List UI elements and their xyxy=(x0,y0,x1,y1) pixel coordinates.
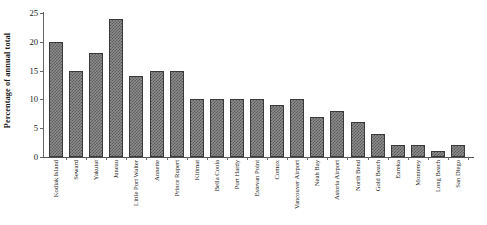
x-axis-label: Seward xyxy=(69,160,83,222)
x-axis-label: Eureka xyxy=(391,160,405,222)
x-axis-label: Prince Rupert xyxy=(170,160,184,222)
bar-chart-figure: Percentage of annual total 0510152025 Ko… xyxy=(0,0,487,225)
bar xyxy=(250,99,264,157)
x-axis-label-text: San Diego xyxy=(454,160,461,188)
x-axis-line xyxy=(43,157,474,158)
bar xyxy=(270,105,284,157)
x-axis-label-text: Long Beach xyxy=(434,160,441,192)
y-axis-tick-mark xyxy=(40,99,44,100)
x-axis-label-text: Kodiak Island xyxy=(52,160,59,197)
bar xyxy=(310,117,324,157)
bar xyxy=(170,71,184,157)
bar xyxy=(230,99,244,157)
x-axis-labels: Kodiak IslandSewardYakutatJuneauLittle P… xyxy=(44,160,474,225)
bar xyxy=(109,19,123,157)
x-axis-label: Bella Coola xyxy=(210,160,224,222)
x-axis-label: Yakutat xyxy=(89,160,103,222)
x-axis-label: Kodiak Island xyxy=(49,160,63,222)
bar xyxy=(210,99,224,157)
x-axis-label-text: Comox xyxy=(273,160,280,179)
x-axis-label-text: Port Hardy xyxy=(233,160,240,189)
bar xyxy=(431,151,445,157)
x-axis-label-text: Gold Beach xyxy=(374,160,381,191)
x-axis-label: Port Hardy xyxy=(230,160,244,222)
x-axis-label-text: Neah Bay xyxy=(314,160,321,186)
y-axis-tick-label: 10 xyxy=(29,94,38,104)
x-axis-label-text: Estevan Point xyxy=(253,160,260,196)
x-axis-label: North Bend xyxy=(351,160,365,222)
x-axis-label-text: Juneau xyxy=(113,160,120,178)
x-axis-label: Estevan Point xyxy=(250,160,264,222)
x-axis-label: Juneau xyxy=(109,160,123,222)
bar xyxy=(69,71,83,157)
bar xyxy=(451,145,465,157)
x-axis-label-text: Prince Rupert xyxy=(173,160,180,196)
x-axis-label-text: Monterey xyxy=(414,160,421,186)
y-axis-title: Percentage of annual total xyxy=(0,0,16,160)
y-axis-tick-mark xyxy=(40,71,44,72)
bar xyxy=(391,145,405,157)
x-axis-label-text: Astoria Airport xyxy=(334,160,341,218)
x-axis-label-text: Kitimat xyxy=(193,160,200,180)
x-axis-label: Annette xyxy=(150,160,164,222)
x-axis-label-text: Vancouver Airport xyxy=(294,160,301,218)
x-axis-label-text: Seward xyxy=(72,160,79,180)
y-axis-tick-label: 5 xyxy=(34,123,38,133)
x-axis-label-text: Eureka xyxy=(394,160,401,179)
x-axis-label-text: Bella Coola xyxy=(213,160,220,191)
bar xyxy=(49,42,63,157)
plot-area: 0510152025 xyxy=(44,13,474,157)
bar xyxy=(190,99,204,157)
x-axis-label-text: Annette xyxy=(153,160,160,181)
y-axis-tick-label: 20 xyxy=(29,37,38,47)
bar xyxy=(89,53,103,157)
x-axis-label: Long Beach xyxy=(431,160,445,222)
y-axis-tick-mark xyxy=(40,157,44,158)
bar xyxy=(351,122,365,157)
bar xyxy=(290,99,304,157)
bar xyxy=(129,76,143,157)
x-axis-label-text: North Bend xyxy=(354,160,361,191)
x-axis-label: Comox xyxy=(270,160,284,222)
y-axis-tick-label: 15 xyxy=(29,66,38,76)
bar xyxy=(150,71,164,157)
x-axis-label: Monterey xyxy=(411,160,425,222)
x-axis-label: Little Port Walter xyxy=(129,160,143,222)
y-axis-title-text: Percentage of annual total xyxy=(4,32,13,127)
x-axis-label: Astoria Airport xyxy=(330,160,344,222)
bar xyxy=(371,134,385,157)
x-axis-label-text: Little Port Walter xyxy=(133,160,140,218)
x-axis-label: Gold Beach xyxy=(371,160,385,222)
x-axis-label: San Diego xyxy=(451,160,465,222)
x-axis-label: Vancouver Airport xyxy=(290,160,304,222)
y-axis-tick-label: 0 xyxy=(34,152,38,162)
y-axis-tick-mark xyxy=(40,42,44,43)
y-axis-tick-mark xyxy=(40,13,44,14)
x-axis-label: Neah Bay xyxy=(310,160,324,222)
x-axis-label: Kitimat xyxy=(190,160,204,222)
x-axis-label-text: Yakutat xyxy=(93,160,100,180)
bar xyxy=(411,145,425,157)
y-axis-tick-mark xyxy=(40,128,44,129)
bar xyxy=(330,111,344,157)
y-axis-tick-label: 25 xyxy=(29,8,38,18)
